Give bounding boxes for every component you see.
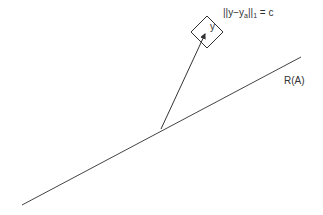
diagram-canvas xyxy=(0,0,323,215)
equation-suffix: = c xyxy=(257,7,273,18)
range-label: R(A) xyxy=(284,75,305,86)
vector-arrow xyxy=(161,34,205,129)
range-line xyxy=(22,57,301,205)
l1-ball-diamond xyxy=(191,16,223,48)
vector-label: y xyxy=(210,21,215,32)
equation-label: ||y−ya||1 = c xyxy=(223,7,273,19)
equation-prefix: ||y−y xyxy=(223,7,244,18)
